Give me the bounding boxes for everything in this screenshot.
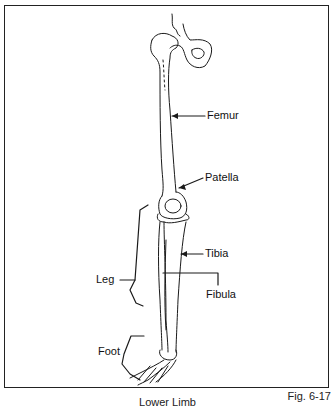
knee-patella-icon bbox=[157, 192, 189, 223]
femur-bone-icon bbox=[151, 33, 178, 196]
label-tibia: Tibia bbox=[205, 248, 228, 259]
fibula-bone-icon bbox=[159, 222, 167, 350]
label-fibula: Fibula bbox=[206, 289, 236, 300]
label-patella: Patella bbox=[205, 172, 239, 183]
label-leg: Leg bbox=[96, 274, 114, 285]
label-femur: Femur bbox=[207, 110, 239, 121]
figure-caption: Lower Limb bbox=[0, 396, 335, 408]
label-foot: Foot bbox=[98, 346, 120, 357]
leader-lines bbox=[120, 116, 218, 380]
tibia-bone-icon bbox=[164, 222, 186, 352]
femur-arrowhead-icon bbox=[172, 113, 178, 119]
foot-bones-icon bbox=[130, 350, 177, 385]
pelvis-icon bbox=[170, 14, 212, 68]
